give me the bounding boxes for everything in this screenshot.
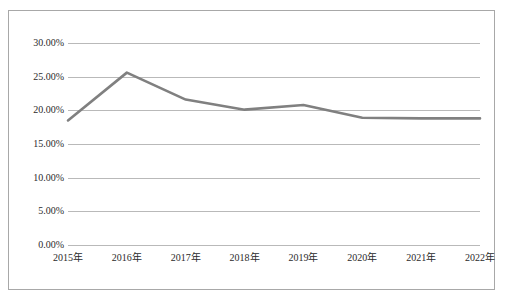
line-chart: 0.00%5.00%10.00%15.00%20.00%25.00%30.00%… (0, 0, 505, 299)
series-line (68, 73, 480, 121)
data-series-layer (0, 0, 505, 299)
